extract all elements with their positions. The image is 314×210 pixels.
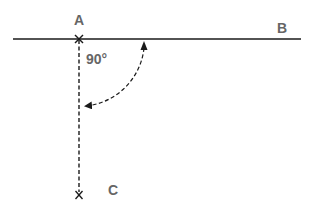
label-b: B — [277, 20, 287, 36]
label-c: C — [108, 182, 118, 198]
label-a: A — [74, 12, 84, 28]
right-angle-diagram: A B C 90° — [0, 0, 314, 210]
arc-arrowhead-top-icon — [141, 41, 148, 50]
point-c-marker — [76, 191, 83, 199]
angle-label: 90° — [86, 51, 107, 67]
